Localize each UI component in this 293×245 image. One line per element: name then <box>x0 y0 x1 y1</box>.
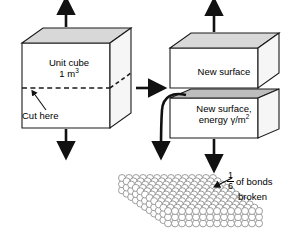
new-surface-energy-text: energy γ/m <box>199 114 246 125</box>
bonds-broken-line1: of bonds <box>236 176 272 187</box>
new-surface-bottom-line1: New surface, <box>196 103 251 114</box>
bonds-broken-line2: broken <box>238 192 291 203</box>
fraction-denominator: 6 <box>227 182 234 191</box>
lattice-atom <box>200 208 207 215</box>
lattice-atom <box>228 208 235 215</box>
lattice-atom <box>207 208 214 215</box>
cube-right-face <box>110 28 131 128</box>
unit-cube-label: Unit cube 1 m3 <box>26 58 112 79</box>
right-top-block <box>170 33 279 88</box>
lattice-atom <box>179 208 186 215</box>
new-surface-energy-exponent: 2 <box>246 112 250 119</box>
lattice-atom <box>193 208 200 215</box>
lattice-atom <box>214 208 221 215</box>
surface-energy-diagram: Unit cube 1 m3 Cut here New surface New … <box>0 0 293 245</box>
lattice-atom <box>172 208 179 215</box>
bonds-broken-label: 1 6 of bonds broken <box>227 172 291 203</box>
one-sixth-fraction: 1 6 <box>227 171 234 191</box>
unit-cube-volume-text: 1 m <box>59 68 75 79</box>
lattice-atom <box>249 208 256 215</box>
lattice-atom <box>221 208 228 215</box>
new-surface-top-label: New surface <box>176 67 272 78</box>
cut-here-label: Cut here <box>22 111 82 122</box>
unit-cube-label-line1: Unit cube <box>49 57 89 68</box>
lattice-atom <box>256 208 263 215</box>
new-surface-bottom-label: New surface, energy γ/m2 <box>176 104 272 125</box>
lattice-atom <box>165 208 172 215</box>
fraction-numerator: 1 <box>227 171 234 180</box>
unit-cube-volume-exponent: 3 <box>75 66 79 73</box>
lattice-atom <box>242 208 249 215</box>
lattice-atom <box>186 208 193 215</box>
lattice-atom <box>235 208 242 215</box>
